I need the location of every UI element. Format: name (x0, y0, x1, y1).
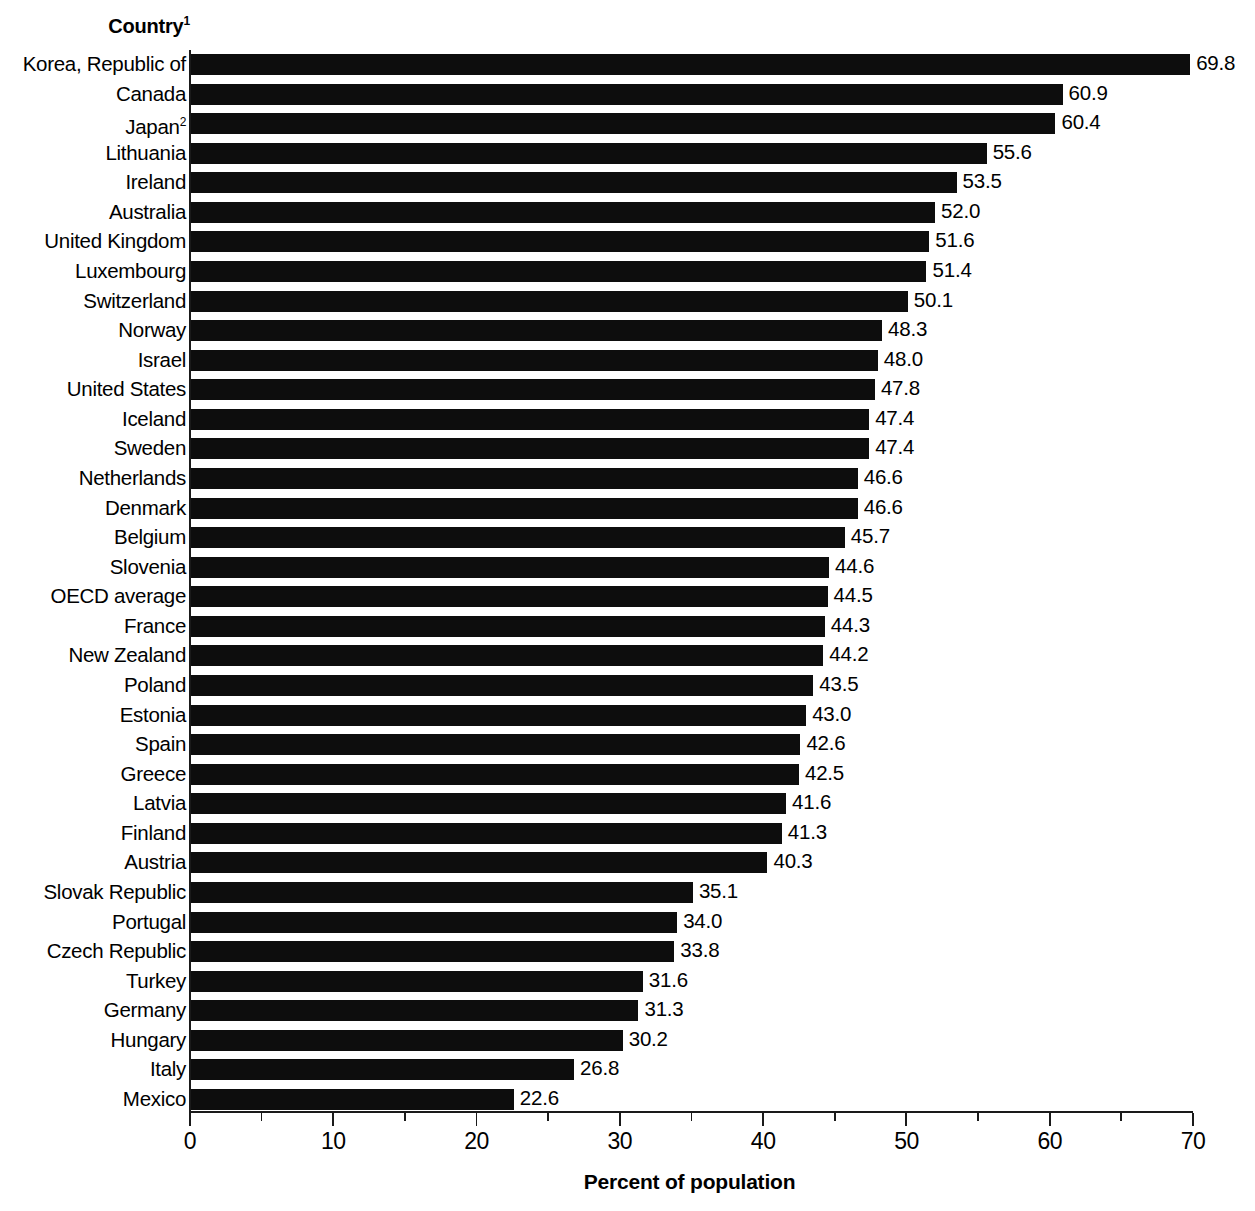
bar-category-label: Japan2 (0, 109, 186, 139)
bar-category-label: Korea, Republic of (0, 50, 186, 80)
bar-value-label: 51.6 (929, 227, 974, 257)
x-axis-tick-label: 20 (464, 1128, 489, 1155)
bar (190, 261, 926, 282)
bar (190, 379, 875, 400)
bar-category-label: Norway (0, 316, 186, 346)
bar-category-label: Canada (0, 80, 186, 110)
bar-value-label: 31.3 (638, 996, 683, 1026)
bar-value-label: 44.3 (825, 612, 870, 642)
bar-value-label: 46.6 (858, 494, 903, 524)
x-axis-major-tick (476, 1113, 478, 1126)
bar-category-label: Hungary (0, 1026, 186, 1056)
bar-category-label: Iceland (0, 405, 186, 435)
bar-category-label: Belgium (0, 523, 186, 553)
bar-value-label: 44.2 (823, 641, 868, 671)
bar (190, 1030, 623, 1051)
bar-category-label: Sweden (0, 434, 186, 464)
bar-value-label: 50.1 (908, 287, 953, 317)
y-axis-line (189, 50, 191, 1112)
x-axis-tick-label: 50 (894, 1128, 919, 1155)
bar-value-label: 60.4 (1055, 109, 1100, 139)
bar-value-label: 69.8 (1190, 50, 1235, 80)
bar-value-label: 33.8 (674, 937, 719, 967)
bar-category-label: New Zealand (0, 641, 186, 671)
bar (190, 557, 829, 578)
x-axis-title: Percent of population (0, 1170, 1255, 1194)
bar-category-label: Luxembourg (0, 257, 186, 287)
x-axis-minor-tick (547, 1113, 549, 1121)
bar (190, 1089, 514, 1110)
bar-value-label: 43.5 (813, 671, 858, 701)
bar (190, 586, 828, 607)
bar-value-label: 48.0 (878, 346, 923, 376)
bar-category-label: Netherlands (0, 464, 186, 494)
bar-chart: Country1 Korea, Republic of69.8Canada60.… (0, 0, 1255, 1211)
bar (190, 409, 869, 430)
x-axis-title-text: Percent of population (584, 1170, 796, 1194)
x-axis-tick-label: 70 (1181, 1128, 1206, 1155)
x-axis-minor-tick (261, 1113, 263, 1121)
bar-category-label: Denmark (0, 494, 186, 524)
bar-category-label: Latvia (0, 789, 186, 819)
bar-value-label: 52.0 (935, 198, 980, 228)
bar-value-label: 47.4 (869, 434, 914, 464)
country-column-header: Country1 (0, 14, 195, 38)
bar (190, 675, 813, 696)
bar-value-label: 41.6 (786, 789, 831, 819)
bar-category-label-superscript: 2 (180, 115, 186, 129)
bar-category-label: Austria (0, 848, 186, 878)
bar-value-label: 42.5 (799, 760, 844, 790)
bar-category-label: Greece (0, 760, 186, 790)
x-axis-tick-label: 60 (1037, 1128, 1062, 1155)
bar (190, 172, 957, 193)
bar-category-label: Poland (0, 671, 186, 701)
bar-category-label: Slovak Republic (0, 878, 186, 908)
bar (190, 882, 693, 903)
bar-value-label: 47.8 (875, 375, 920, 405)
country-column-header-superscript: 1 (184, 14, 190, 28)
x-axis-tick-label: 40 (751, 1128, 776, 1155)
bar (190, 764, 799, 785)
bar (190, 912, 677, 933)
bar-category-label: United Kingdom (0, 227, 186, 257)
x-axis-minor-tick (977, 1113, 979, 1121)
country-column-header-text: Country (108, 15, 183, 37)
x-axis-minor-tick (1120, 1113, 1122, 1121)
bar-value-label: 31.6 (643, 967, 688, 997)
bar-value-label: 30.2 (623, 1026, 668, 1056)
bar-category-label: Australia (0, 198, 186, 228)
bar (190, 202, 935, 223)
x-axis-minor-tick (834, 1113, 836, 1121)
bar-value-label: 26.8 (574, 1055, 619, 1085)
x-axis-major-tick (332, 1113, 334, 1126)
bar-value-label: 55.6 (987, 139, 1032, 169)
bar (190, 705, 806, 726)
bar (190, 54, 1190, 75)
bar-value-label: 45.7 (845, 523, 890, 553)
x-axis-major-tick (189, 1113, 191, 1126)
bar-category-label: Czech Republic (0, 937, 186, 967)
bar-category-label: OECD average (0, 582, 186, 612)
bar-value-label: 40.3 (767, 848, 812, 878)
bar-value-label: 46.6 (858, 464, 903, 494)
bar-category-label: Spain (0, 730, 186, 760)
bar-value-label: 34.0 (677, 908, 722, 938)
bar-category-label: Finland (0, 819, 186, 849)
bar-value-label: 43.0 (806, 701, 851, 731)
x-axis-major-tick (905, 1113, 907, 1126)
x-axis-minor-tick (404, 1113, 406, 1121)
bar-value-label: 44.5 (828, 582, 873, 612)
bar (190, 231, 929, 252)
x-axis-major-tick (762, 1113, 764, 1126)
bar-category-label: Mexico (0, 1085, 186, 1115)
bar-value-label: 53.5 (957, 168, 1002, 198)
bar-category-label: Israel (0, 346, 186, 376)
bar-value-label: 35.1 (693, 878, 738, 908)
x-axis-tick-label: 10 (321, 1128, 346, 1155)
bar-category-label: United States (0, 375, 186, 405)
bar (190, 823, 782, 844)
bar (190, 645, 823, 666)
bar-value-label: 42.6 (800, 730, 845, 760)
bar (190, 498, 858, 519)
x-axis-major-tick (1192, 1113, 1194, 1126)
